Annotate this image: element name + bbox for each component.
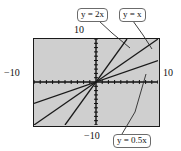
- callout-y-equals-2x: y = 2x: [77, 8, 108, 22]
- plot-canvas: [34, 39, 158, 125]
- callout-y-equals-x: y = x: [119, 8, 146, 22]
- plot-area: [33, 38, 160, 127]
- callout-y-equals-half-x: y = 0.5x: [113, 134, 151, 148]
- axis-label-left: −10: [4, 68, 20, 78]
- axis-label-right: 10: [163, 68, 173, 78]
- figure-container: −10 10 10 −10 y = 2x y = x y = 0.5x: [0, 0, 181, 151]
- axis-label-bottom: −10: [84, 131, 100, 141]
- axis-label-top: 10: [74, 25, 84, 35]
